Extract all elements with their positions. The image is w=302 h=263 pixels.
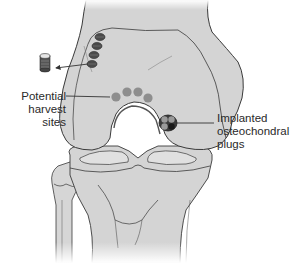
harvest-label-line-3: sites xyxy=(2,116,66,129)
harvest-label-line-2: harvest xyxy=(2,103,66,116)
harvest-label-line-1: Potential xyxy=(2,90,66,103)
extracted-plug-icon xyxy=(40,54,50,72)
implanted-label-line-2: osteochondral xyxy=(217,125,302,138)
harvest-sites-label: Potential harvest sites xyxy=(2,90,66,129)
implanted-label-line-3: plugs xyxy=(217,138,302,151)
implanted-plugs xyxy=(159,115,177,131)
implanted-plugs-label: Implanted osteochondral plugs xyxy=(217,112,302,151)
implanted-label-line-1: Implanted xyxy=(217,112,302,125)
